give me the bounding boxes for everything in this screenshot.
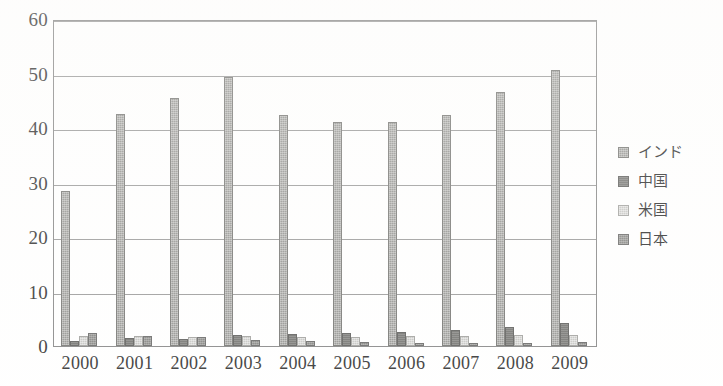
bar-group <box>217 21 271 346</box>
bar-group <box>544 21 598 346</box>
bar <box>360 342 369 346</box>
bar <box>88 333 97 346</box>
bar <box>116 114 125 346</box>
legend-item[interactable]: 米国 <box>618 196 721 225</box>
bar <box>560 323 569 346</box>
bar <box>251 340 260 346</box>
legend-swatch-icon <box>618 234 629 245</box>
bar <box>188 337 197 346</box>
bar <box>134 336 143 346</box>
bar-group <box>272 21 326 346</box>
bar <box>397 332 406 346</box>
x-axis-tick-label: 2007 <box>434 352 488 374</box>
plot-area <box>53 20 597 347</box>
legend-item-label: インド <box>638 144 683 161</box>
bar <box>578 342 587 346</box>
bar <box>451 330 460 346</box>
x-axis-tick-label: 2001 <box>107 352 161 374</box>
legend-item[interactable]: インド <box>618 138 721 167</box>
x-axis-tick-label: 2008 <box>488 352 542 374</box>
bar <box>460 336 469 346</box>
bar <box>224 77 233 346</box>
bar <box>233 335 242 346</box>
bar <box>505 327 514 346</box>
bar <box>442 115 451 346</box>
y-axis-tick-label: 30 <box>2 174 48 193</box>
x-axis-tick-label: 2003 <box>216 352 270 374</box>
x-axis-tick-label: 2009 <box>543 352 597 374</box>
bar <box>143 336 152 346</box>
bar <box>351 337 360 346</box>
bar <box>415 343 424 346</box>
x-axis-tick-label: 2000 <box>53 352 107 374</box>
legend-swatch-icon <box>618 176 629 187</box>
y-axis-tick-labels: 0102030405060 <box>0 0 48 386</box>
bar <box>70 341 79 346</box>
x-axis-tick-label: 2004 <box>271 352 325 374</box>
bar-group <box>380 21 434 346</box>
y-axis-tick-label: 0 <box>2 337 48 356</box>
y-axis-tick-label: 40 <box>2 119 48 138</box>
bar <box>569 335 578 346</box>
legend-item-label: 日本 <box>638 231 668 248</box>
bar <box>496 92 505 346</box>
bar-group <box>108 21 162 346</box>
bar-group <box>163 21 217 346</box>
bar-group <box>54 21 108 346</box>
x-axis-tick-label: 2002 <box>162 352 216 374</box>
bar <box>388 122 397 346</box>
legend-swatch-icon <box>618 205 629 216</box>
bar <box>79 336 88 346</box>
bar <box>333 122 342 346</box>
bar <box>179 339 188 346</box>
bar <box>279 115 288 346</box>
bar <box>306 341 315 346</box>
x-axis-tick-label: 2006 <box>379 352 433 374</box>
y-axis-tick-label: 60 <box>2 10 48 29</box>
y-axis-tick-label: 50 <box>2 65 48 84</box>
bar <box>514 335 523 346</box>
bar-group <box>435 21 489 346</box>
bar <box>523 343 532 346</box>
legend-swatch-icon <box>618 147 629 158</box>
bar-chart: 0102030405060 20002001200220032004200520… <box>0 0 723 386</box>
legend-item[interactable]: 中国 <box>618 167 721 196</box>
bar <box>469 343 478 346</box>
bar <box>551 70 560 346</box>
bar <box>125 338 134 346</box>
bar-group <box>489 21 543 346</box>
x-axis-tick-labels: 2000200120022003200420052006200720082009 <box>53 352 597 382</box>
bar <box>242 336 251 346</box>
bar <box>197 337 206 346</box>
legend-item[interactable]: 日本 <box>618 225 721 254</box>
legend-item-label: 米国 <box>638 202 668 219</box>
bar <box>297 337 306 346</box>
bar <box>61 191 70 346</box>
bar <box>342 333 351 346</box>
y-axis-tick-label: 20 <box>2 228 48 247</box>
legend-item-label: 中国 <box>638 173 668 190</box>
x-axis-tick-label: 2005 <box>325 352 379 374</box>
chart-legend: インド中国米国日本 <box>618 138 721 254</box>
bar <box>406 336 415 346</box>
bar <box>170 98 179 346</box>
bar <box>288 334 297 346</box>
y-axis-tick-label: 10 <box>2 283 48 302</box>
bar-group <box>326 21 380 346</box>
